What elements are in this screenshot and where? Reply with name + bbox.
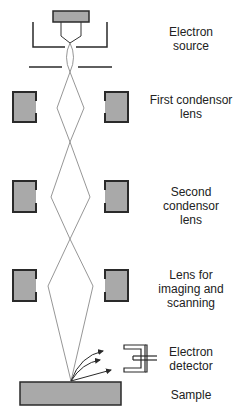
label-line: Electron [141, 345, 241, 359]
label-line: First condensor [141, 93, 241, 107]
source-block [53, 11, 89, 22]
label-second-condensor-lens: Second condensor lens [141, 185, 241, 227]
label-line: Electron [141, 25, 241, 39]
label-electron-detector: Electron detector [141, 345, 241, 373]
label-line: imaging and [141, 282, 241, 296]
filament-right [70, 22, 81, 43]
label-line: Lens for [141, 268, 241, 282]
label-imaging-lens: Lens for imaging and scanning [141, 268, 241, 310]
label-line: Second condensor [141, 185, 241, 213]
imaging-scanning-lens [13, 270, 128, 301]
label-line: detector [141, 359, 241, 373]
wehnelt-left [33, 22, 65, 47]
label-line: lens [141, 213, 241, 227]
filament-left [61, 22, 70, 43]
electron-beam [48, 43, 93, 381]
second-condensor-lens [13, 181, 128, 212]
label-line: lens [141, 107, 241, 121]
label-line: scanning [141, 296, 241, 310]
electron-source [29, 11, 112, 67]
arrow-3-icon [71, 370, 111, 381]
label-electron-source: Electron source [141, 25, 241, 53]
label-line: Sample [141, 388, 241, 402]
beam-right [70, 43, 93, 381]
label-first-condensor-lens: First condensor lens [141, 93, 241, 121]
label-sample: Sample [141, 388, 241, 402]
beam-left [48, 43, 71, 381]
first-condensor-lens [13, 92, 128, 122]
sample-block [20, 382, 121, 405]
label-line: source [141, 39, 241, 53]
